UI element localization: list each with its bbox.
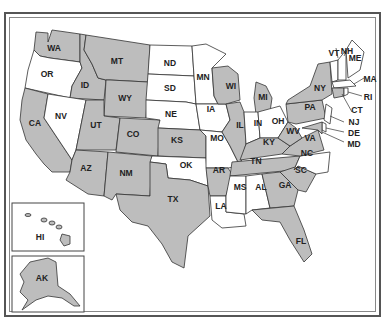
label-wa: WA: [47, 43, 61, 53]
label-me: ME: [349, 53, 362, 63]
label-ga: GA: [279, 180, 292, 190]
us-map: WA OR CA ID NV MT WY UT AZ CO NM ND SD N…: [0, 0, 385, 321]
label-id: ID: [81, 80, 90, 90]
label-nv: NV: [55, 111, 67, 121]
label-ne: NE: [165, 109, 177, 119]
label-ma: MA: [363, 74, 376, 84]
label-sd: SD: [164, 83, 176, 93]
label-fl: FL: [296, 236, 306, 246]
label-co: CO: [127, 129, 140, 139]
leader-ri: [348, 92, 362, 96]
label-in: IN: [254, 118, 263, 128]
state-fl[interactable]: [252, 206, 312, 262]
state-ct[interactable]: [332, 88, 344, 98]
label-nm: NM: [119, 168, 132, 178]
label-ut: UT: [90, 120, 102, 130]
label-ct: CT: [351, 105, 363, 115]
label-nd: ND: [164, 58, 176, 68]
label-la: LA: [215, 201, 226, 211]
label-tn: TN: [250, 156, 261, 166]
label-ks: KS: [171, 135, 183, 145]
leader-nj: [330, 116, 344, 122]
label-pa: PA: [304, 102, 315, 112]
label-ky: KY: [263, 137, 275, 147]
label-oh: OH: [272, 116, 285, 126]
label-ri: RI: [364, 92, 373, 102]
label-md: MD: [347, 139, 360, 149]
label-or: OR: [41, 69, 54, 79]
label-il: IL: [236, 120, 244, 130]
label-nc: NC: [301, 148, 313, 158]
label-vt: VT: [329, 48, 341, 58]
label-va: VA: [304, 133, 315, 143]
state-ma[interactable]: [332, 80, 356, 88]
label-ms: MS: [234, 182, 247, 192]
label-wy: WY: [118, 93, 132, 103]
state-nj[interactable]: [324, 104, 332, 124]
state-ri[interactable]: [344, 88, 348, 96]
label-ca: CA: [29, 118, 41, 128]
label-mt: MT: [111, 56, 124, 66]
label-de: DE: [348, 128, 360, 138]
label-al: AL: [255, 182, 266, 192]
label-mn: MN: [196, 72, 209, 82]
hawaii-inset: [12, 203, 84, 251]
label-az: AZ: [80, 163, 91, 173]
leader-md: [322, 132, 344, 142]
label-wv: WV: [286, 126, 300, 136]
label-ia: IA: [207, 104, 216, 114]
label-ak: AK: [36, 273, 49, 283]
label-mo: MO: [210, 133, 224, 143]
label-mi: MI: [258, 92, 267, 102]
leader-de: [326, 128, 344, 132]
label-ar: AR: [213, 165, 225, 175]
state-de[interactable]: [322, 122, 326, 132]
label-sc: SC: [295, 165, 307, 175]
label-wi: WI: [226, 81, 236, 91]
label-hi: HI: [36, 232, 45, 242]
label-tx: TX: [168, 194, 179, 204]
label-nj: NJ: [349, 117, 360, 127]
label-ok: OK: [180, 160, 194, 170]
label-ny: NY: [314, 83, 326, 93]
